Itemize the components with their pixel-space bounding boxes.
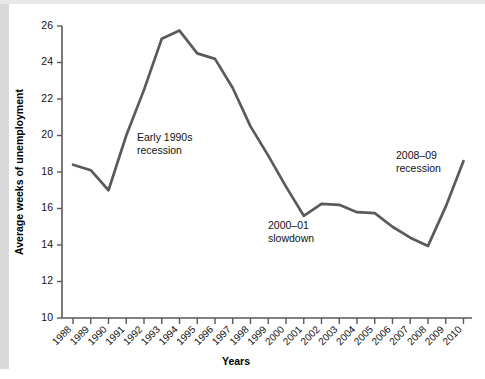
x-tick-label: 1995 xyxy=(174,323,198,347)
annotation-2000-01-slowdown: 2000–01slowdown xyxy=(268,219,314,244)
annotation-group: Early 1990srecession2000–01slowdown2008–… xyxy=(137,131,441,244)
line-chart-svg: 101214161820222426 198819891990199119921… xyxy=(0,0,485,379)
x-tick-label: 2006 xyxy=(369,323,393,347)
x-tick-label: 2009 xyxy=(423,323,447,347)
annotation-2008-09-recession: 2008–09recession xyxy=(396,149,441,174)
x-tick-label: 2000 xyxy=(263,323,287,347)
y-axis-title: Average weeks of unemployment xyxy=(13,89,25,255)
x-tick-label: 1997 xyxy=(210,323,234,347)
y-tick-label: 16 xyxy=(41,201,53,213)
x-tick-label: 2007 xyxy=(387,323,411,347)
x-tick-label: 2003 xyxy=(316,323,340,347)
x-tick-label: 1988 xyxy=(50,323,74,347)
annotation-early-1990s-recession: Early 1990srecession xyxy=(137,131,192,156)
y-tick-label: 12 xyxy=(41,274,53,286)
y-tick-label: 14 xyxy=(41,238,53,250)
x-tick-group: 1988198919901991199219931994199519961997… xyxy=(50,318,464,347)
x-tick-label: 2005 xyxy=(352,323,376,347)
x-tick-label: 1991 xyxy=(103,323,127,347)
x-tick-label: 1999 xyxy=(245,323,269,347)
x-tick-label: 2004 xyxy=(334,323,358,347)
x-tick-label: 1994 xyxy=(156,323,180,347)
y-tick-label: 20 xyxy=(41,128,53,140)
x-axis-title: Years xyxy=(222,355,250,367)
x-tick-label: 1989 xyxy=(68,323,92,347)
y-tick-label: 18 xyxy=(41,165,53,177)
x-tick-label: 1996 xyxy=(192,323,216,347)
y-tick-label: 24 xyxy=(41,55,53,67)
x-tick-label: 1992 xyxy=(121,323,145,347)
x-tick-label: 2002 xyxy=(298,323,322,347)
x-tick-label: 1998 xyxy=(227,323,251,347)
y-tick-label: 10 xyxy=(41,311,53,323)
unemployment-series-line xyxy=(73,31,463,246)
y-tick-group: 101214161820222426 xyxy=(41,19,62,323)
x-tick-label: 2008 xyxy=(405,323,429,347)
y-tick-label: 22 xyxy=(41,92,53,104)
y-tick-label: 26 xyxy=(41,19,53,31)
x-tick-label: 1990 xyxy=(85,323,109,347)
chart-figure: 101214161820222426 198819891990199119921… xyxy=(0,0,485,379)
x-tick-label: 2010 xyxy=(440,323,464,347)
x-tick-label: 1993 xyxy=(139,323,163,347)
x-tick-label: 2001 xyxy=(281,323,305,347)
